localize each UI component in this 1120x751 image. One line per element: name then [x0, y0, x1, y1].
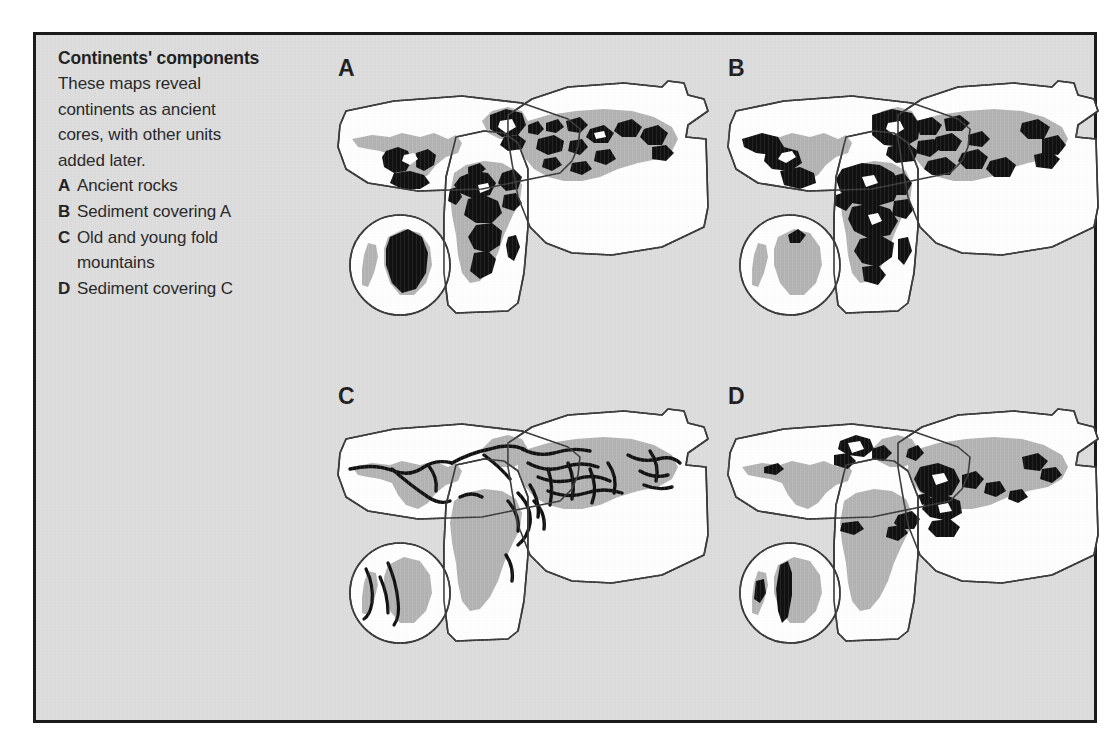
- legend-label-c: Old and young fold: [77, 225, 218, 251]
- legend-item-d: D Sediment covering C: [58, 276, 320, 302]
- panel-b-sediment-covering-a: B: [722, 55, 1102, 355]
- caption-title: Continents' components: [58, 46, 320, 70]
- figure-caption: Continents' components These maps reveal…: [58, 46, 320, 301]
- legend-item-c: C Old and young fold: [58, 225, 320, 251]
- legend-item-a: A Ancient rocks: [58, 173, 320, 199]
- caption-description-line-3: cores, with other units: [58, 122, 320, 148]
- figure-page: Continents' components These maps reveal…: [0, 0, 1120, 751]
- caption-description-line-2: continents as ancient: [58, 97, 320, 123]
- legend-label-a: Ancient rocks: [77, 173, 178, 199]
- figure-frame: Continents' components These maps reveal…: [33, 32, 1097, 723]
- caption-description-line-1: These maps reveal: [58, 71, 320, 97]
- panel-a-map: [332, 77, 712, 355]
- legend-label-b: Sediment covering A: [77, 199, 231, 225]
- caption-description-line-4: added later.: [58, 148, 320, 174]
- legend-letter-d: D: [58, 276, 77, 302]
- legend-letter-b: B: [58, 199, 77, 225]
- legend-label-c-continued: mountains: [58, 250, 320, 276]
- legend-item-b: B Sediment covering A: [58, 199, 320, 225]
- panel-c-fold-mountains: C: [332, 383, 712, 683]
- legend-label-d: Sediment covering C: [77, 276, 233, 302]
- panel-d-map: [722, 405, 1102, 683]
- panel-c-map: [332, 405, 712, 683]
- panel-a-ancient-rocks: A: [332, 55, 712, 355]
- panel-d-sediment-covering-c: D: [722, 383, 1102, 683]
- panel-b-map: [722, 77, 1102, 355]
- legend-letter-a: A: [58, 173, 77, 199]
- legend-letter-c: C: [58, 225, 77, 251]
